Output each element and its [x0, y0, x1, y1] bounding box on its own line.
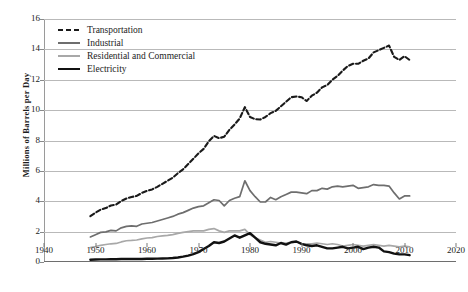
y-tick-mark	[40, 262, 44, 263]
gridline: 0	[44, 262, 456, 263]
legend-label: Industrial	[87, 38, 123, 48]
x-tick-label: 2010	[396, 246, 414, 255]
x-tick-label: 1960	[138, 246, 156, 255]
y-tick-label: 10	[31, 105, 40, 114]
legend-label: Transportation	[87, 25, 143, 35]
y-tick-label: 16	[31, 14, 40, 23]
x-tick-label: 2000	[344, 246, 362, 255]
y-axis-label: Millions of Barrels per Day	[21, 45, 31, 205]
x-tick-label: 1940	[35, 246, 53, 255]
x-tick-label: 1970	[190, 246, 208, 255]
x-tick-label: 1990	[293, 246, 311, 255]
chart-figure: Millions of Barrels per Day 024681012141…	[0, 0, 468, 292]
legend-item[interactable]: Transportation	[58, 23, 195, 36]
x-tick-mark	[456, 243, 457, 247]
x-tick-mark	[353, 243, 354, 247]
legend-label: Residential and Commercial	[87, 51, 195, 61]
x-tick-label: 1950	[87, 246, 105, 255]
x-tick-mark	[95, 243, 96, 247]
legend-swatch-icon	[58, 29, 80, 31]
x-tick-mark	[44, 243, 45, 247]
series-line	[90, 181, 409, 237]
x-tick-mark	[250, 243, 251, 247]
x-tick-mark	[147, 243, 148, 247]
x-tick-mark	[198, 243, 199, 247]
legend-swatch-icon	[58, 68, 80, 70]
x-tick-mark	[301, 243, 302, 247]
legend-label: Electricity	[87, 64, 127, 74]
legend-swatch-icon	[58, 55, 80, 57]
y-tick-label: 14	[31, 44, 40, 53]
x-tick-mark	[404, 243, 405, 247]
y-tick-label: 12	[31, 75, 40, 84]
legend-item[interactable]: Electricity	[58, 62, 195, 75]
x-tick-label: 2020	[447, 246, 465, 255]
legend-item[interactable]: Residential and Commercial	[58, 49, 195, 62]
legend: TransportationIndustrialResidential and …	[58, 23, 195, 75]
x-tick-label: 1980	[241, 246, 259, 255]
legend-item[interactable]: Industrial	[58, 36, 195, 49]
legend-swatch-icon	[58, 42, 80, 44]
